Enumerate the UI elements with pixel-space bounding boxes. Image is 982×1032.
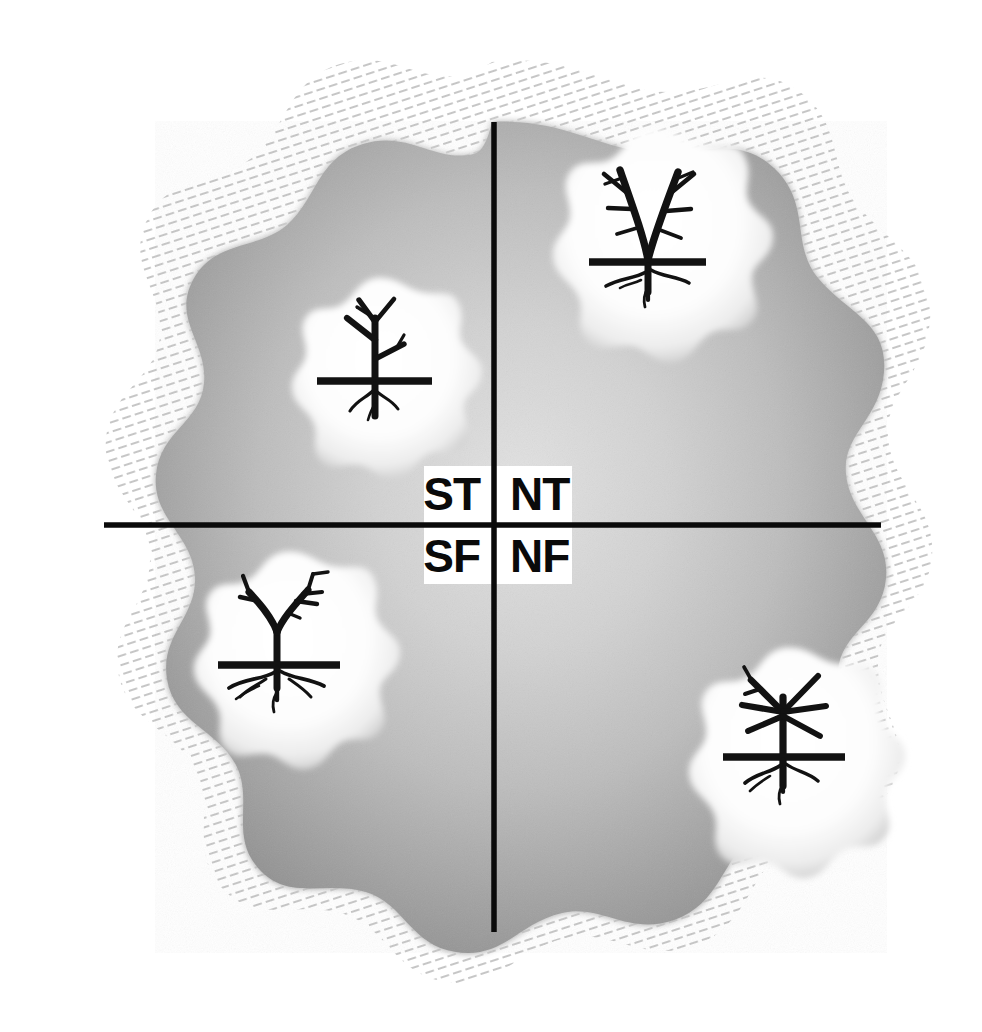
- blob-nf: [689, 648, 905, 879]
- quadrant-label-nf[interactable]: NF: [510, 530, 569, 582]
- quadrant-label-nt[interactable]: NT: [510, 468, 570, 520]
- blob-nt: [553, 129, 773, 363]
- tree-icon-nt[interactable]: [553, 129, 773, 363]
- center-label-group: ST NT SF NF: [423, 466, 572, 584]
- quadrant-label-sf[interactable]: SF: [423, 530, 480, 582]
- diagram-canvas: ST NT SF NF: [0, 0, 982, 1032]
- quadrant-label-st[interactable]: ST: [423, 468, 481, 520]
- tree-icon-nf[interactable]: [689, 648, 905, 879]
